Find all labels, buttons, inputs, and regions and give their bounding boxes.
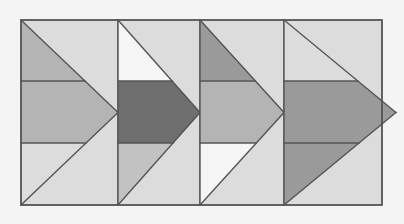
figure-root [0, 0, 404, 224]
arrow-panels-figure [0, 0, 404, 224]
panel-group-2 [118, 20, 200, 205]
panel-group-4 [284, 20, 396, 205]
panel-group-3 [200, 20, 284, 205]
panel-group-1 [21, 20, 118, 205]
